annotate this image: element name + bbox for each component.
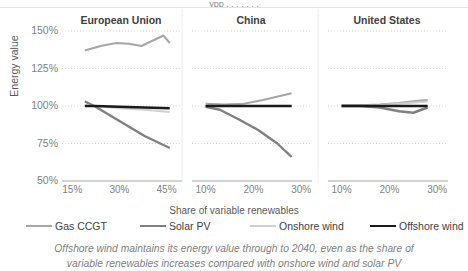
legend-swatch-line-icon	[140, 225, 166, 227]
caption-line-1: Offshore wind maintains its energy value…	[24, 241, 444, 256]
x-tick-label: 10%	[186, 184, 226, 195]
x-tick-label: 10%	[322, 184, 362, 195]
x-tick-label: 30%	[417, 184, 457, 195]
figure-caption: Offshore wind maintains its energy value…	[24, 241, 444, 271]
legend-item-solar-pv[interactable]: Solar PV	[140, 220, 210, 232]
legend-item-label: Onshore wind	[279, 220, 344, 232]
legend-item-label: Solar PV	[169, 220, 210, 232]
x-tick-label: 15%	[52, 184, 92, 195]
chart-plot-area	[0, 0, 468, 200]
x-tick-label: 20%	[369, 184, 409, 195]
caption-line-2: variable renewables increases compared w…	[24, 256, 444, 271]
x-tick-label: 30%	[99, 184, 139, 195]
legend-item-offshore-wind[interactable]: Offshore wind	[370, 220, 464, 232]
y-tick-label: 125%	[14, 62, 58, 74]
y-tick-label: 150%	[14, 24, 58, 36]
legend-item-label: Offshore wind	[399, 220, 464, 232]
x-tick-label: 20%	[233, 184, 273, 195]
figure-root: ypp . . . . . . . Energy value European …	[0, 0, 468, 271]
legend-swatch-line-icon	[26, 225, 52, 227]
x-tick-label: 30%	[281, 184, 321, 195]
legend-item-label: Gas CCGT	[55, 220, 107, 232]
y-tick-label: 75%	[14, 137, 58, 149]
legend-item-gas-ccgt[interactable]: Gas CCGT	[26, 220, 107, 232]
legend-swatch-line-icon	[370, 225, 396, 227]
x-tick-label: 45%	[147, 184, 187, 195]
panel-title-3: United States	[302, 14, 468, 26]
legend-swatch-line-icon	[250, 225, 276, 227]
legend-item-onshore-wind[interactable]: Onshore wind	[250, 220, 344, 232]
y-tick-label: 50%	[14, 174, 58, 186]
x-axis-title: Share of variable renewables	[0, 205, 468, 216]
y-tick-label: 100%	[14, 99, 58, 111]
chart-legend: Gas CCGTSolar PVOnshore windOffshore win…	[0, 218, 468, 236]
